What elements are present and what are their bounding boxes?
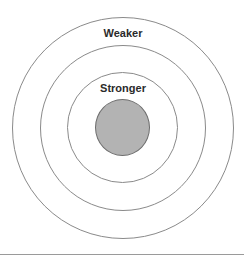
stronger-label: Stronger: [100, 82, 146, 94]
weaker-label: Weaker: [104, 27, 143, 39]
concentric-strength-diagram: Weaker Stronger: [0, 0, 244, 256]
core-circle: [95, 99, 150, 156]
bottom-divider: [0, 254, 244, 255]
